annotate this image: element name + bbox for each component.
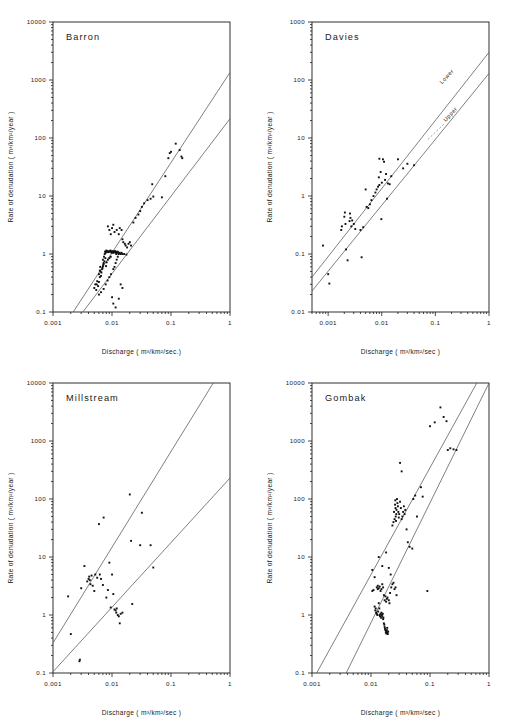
panel-title: Gombak	[325, 393, 366, 403]
fit-line-lower	[83, 119, 230, 312]
data-point	[370, 199, 372, 201]
data-point	[98, 523, 100, 525]
data-point	[378, 176, 380, 178]
data-point	[96, 280, 98, 282]
data-point	[439, 406, 441, 408]
data-point	[449, 447, 451, 449]
data-point	[102, 264, 104, 266]
data-point	[416, 516, 418, 518]
y-tick-label: 1000	[31, 437, 47, 444]
x-tick-label: 0.01	[364, 680, 378, 687]
data-point	[119, 622, 121, 624]
data-point	[394, 588, 396, 590]
data-point	[79, 659, 81, 661]
data-point	[170, 151, 172, 153]
y-axis-title: Rate of denudation ( m³/km²/year )	[7, 473, 15, 584]
data-point	[383, 161, 385, 163]
data-point	[384, 595, 386, 597]
plot-frame	[312, 22, 489, 312]
data-point	[382, 158, 384, 160]
data-point	[434, 421, 436, 423]
data-point	[111, 227, 113, 229]
data-point	[99, 270, 101, 272]
data-point	[121, 253, 123, 255]
x-tick-label: 0.001	[44, 319, 62, 326]
data-point	[114, 231, 116, 233]
x-tick-label: 0.1	[425, 680, 435, 687]
data-point	[384, 626, 386, 628]
data-point	[86, 580, 88, 582]
panel-title: Davies	[325, 32, 360, 42]
data-point	[93, 287, 95, 289]
data-point	[389, 183, 391, 185]
data-point	[80, 587, 82, 589]
data-point	[135, 217, 137, 219]
data-point	[354, 228, 356, 230]
data-point	[406, 163, 408, 165]
data-point	[398, 517, 400, 519]
data-point	[380, 171, 382, 173]
data-point	[378, 607, 380, 609]
data-point	[402, 167, 404, 169]
data-point	[120, 613, 122, 615]
data-point	[103, 288, 105, 290]
y-axis-title: Rate of denudation ( m³/km²/year )	[266, 473, 274, 584]
data-point	[382, 586, 384, 588]
data-point	[360, 229, 362, 231]
data-point	[102, 259, 104, 261]
data-point	[126, 246, 128, 248]
data-point	[115, 262, 117, 264]
fit-line-upper	[317, 383, 477, 673]
data-point	[349, 213, 351, 215]
y-tick-label: 100	[34, 495, 46, 502]
data-point	[407, 541, 409, 543]
plot-davies: 0.0010.010.1110001001010.10.01DaviesLowe…	[259, 0, 518, 361]
data-point	[396, 594, 398, 596]
data-point	[107, 280, 109, 282]
data-point	[125, 245, 127, 247]
panel-davies: 0.0010.010.1110001001010.10.01DaviesLowe…	[259, 0, 518, 361]
data-point	[118, 615, 120, 617]
y-tick-label: 1	[42, 250, 46, 257]
data-point	[396, 509, 398, 511]
data-point	[347, 259, 349, 261]
data-point	[161, 196, 163, 198]
x-tick-label: 0.01	[105, 319, 119, 326]
data-point	[88, 576, 90, 578]
y-tick-label: 1	[301, 611, 305, 618]
data-point	[396, 502, 398, 504]
data-point	[117, 256, 119, 258]
data-point	[89, 583, 91, 585]
y-tick-label: 100	[293, 76, 305, 83]
plot-gombak: 0.0010.010.111000010001001010.1GombakDis…	[259, 361, 518, 722]
data-point	[395, 516, 397, 518]
data-point	[371, 569, 373, 571]
data-point	[112, 224, 114, 226]
data-point	[137, 214, 139, 216]
data-point	[129, 494, 131, 496]
data-point	[108, 276, 110, 278]
data-point	[365, 188, 367, 190]
data-point	[322, 245, 324, 247]
data-point	[115, 610, 117, 612]
data-point	[121, 287, 123, 289]
data-point	[96, 577, 98, 579]
data-point	[103, 517, 105, 519]
data-point	[387, 182, 389, 184]
data-point	[384, 179, 386, 181]
data-point	[349, 220, 351, 222]
data-point	[389, 592, 391, 594]
data-point	[399, 462, 401, 464]
data-point	[376, 586, 378, 588]
data-point	[379, 586, 381, 588]
data-point	[147, 199, 149, 201]
x-tick-label: 1	[487, 680, 491, 687]
data-point	[378, 587, 380, 589]
data-point	[349, 217, 351, 219]
data-point	[406, 528, 408, 530]
data-point	[164, 175, 166, 177]
data-point	[345, 223, 347, 225]
data-point	[327, 273, 329, 275]
data-point	[376, 614, 378, 616]
data-point	[393, 582, 395, 584]
